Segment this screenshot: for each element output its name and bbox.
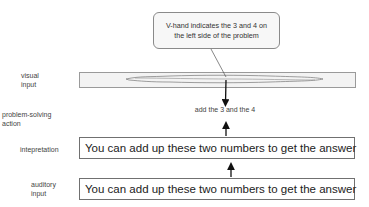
connectors <box>0 0 369 207</box>
arrow-down-icon <box>226 80 227 103</box>
scribble-icon <box>126 75 323 83</box>
callout-tail <box>211 49 226 77</box>
